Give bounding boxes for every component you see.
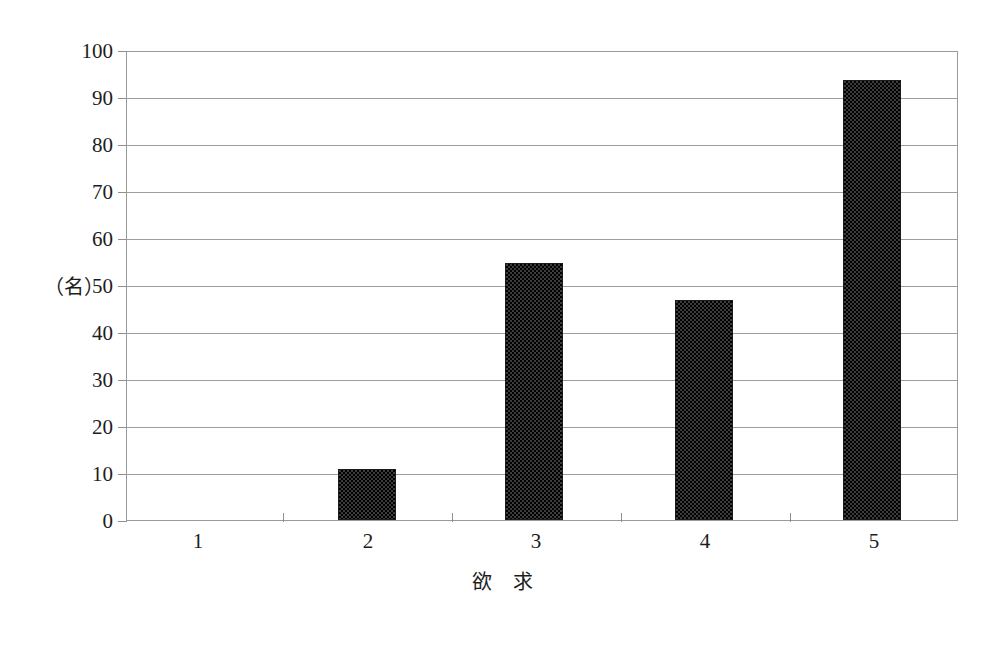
x-tick-mark-2 xyxy=(452,513,453,522)
bar-category-3 xyxy=(505,263,563,520)
y-tick-label-50: 50 xyxy=(55,276,113,297)
x-tick-label-5: 5 xyxy=(844,531,904,552)
y-tick-label-60: 60 xyxy=(55,229,113,250)
x-tick-label-4: 4 xyxy=(675,531,735,552)
gridline-90 xyxy=(127,98,957,99)
bar-category-5 xyxy=(843,80,901,520)
x-tick-label-3: 3 xyxy=(506,531,566,552)
x-tick-mark-4 xyxy=(790,513,791,522)
x-axis-title: 欲 求 xyxy=(0,572,1005,592)
y-tick-label-20: 20 xyxy=(55,417,113,438)
y-tick-label-30: 30 xyxy=(55,370,113,391)
bar-category-2 xyxy=(338,469,396,520)
bar-category-4 xyxy=(675,300,733,520)
gridline-60 xyxy=(127,239,957,240)
y-tick-label-100: 100 xyxy=(55,41,113,62)
x-tick-label-1: 1 xyxy=(168,531,228,552)
y-tick-label-70: 70 xyxy=(55,182,113,203)
x-tick-label-2: 2 xyxy=(338,531,398,552)
plot-area xyxy=(126,51,958,521)
x-tick-mark-3 xyxy=(621,513,622,522)
y-tick-label-40: 40 xyxy=(55,323,113,344)
y-tick-mark-0 xyxy=(118,521,127,522)
y-tick-label-80: 80 xyxy=(55,135,113,156)
y-tick-label-90: 90 xyxy=(55,88,113,109)
gridline-70 xyxy=(127,192,957,193)
y-tick-label-10: 10 xyxy=(55,464,113,485)
gridline-80 xyxy=(127,145,957,146)
y-tick-label-0: 0 xyxy=(55,511,113,532)
bar-chart: （名） 100 90 80 70 60 50 40 30 20 10 0 xyxy=(0,0,1005,648)
x-tick-mark-1 xyxy=(283,513,284,522)
